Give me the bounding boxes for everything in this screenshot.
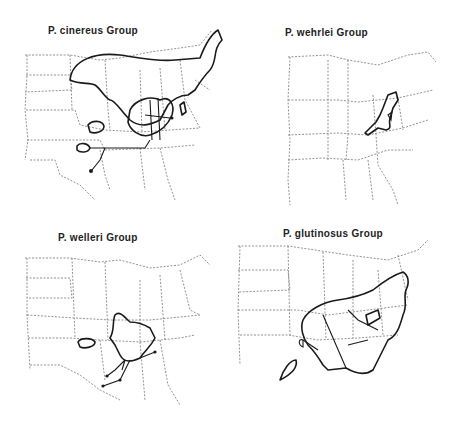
range-outlines — [280, 272, 408, 380]
state-borders — [238, 240, 428, 365]
map-panel-wehrlei: P. wehrlei Group — [228, 0, 456, 210]
range-outlines — [70, 30, 222, 173]
range-outlines — [78, 313, 157, 387]
range-map — [0, 0, 228, 210]
state-borders — [25, 255, 210, 405]
map-panel-welleri: P. welleri Group — [0, 210, 228, 425]
map-panel-cinereus: P. cinereus Group — [0, 0, 228, 210]
map-panel-glutinosus: P. glutinosus Group — [228, 210, 456, 425]
range-map — [228, 210, 456, 425]
state-borders — [288, 52, 436, 205]
range-map — [0, 210, 228, 425]
range-map — [228, 0, 456, 210]
